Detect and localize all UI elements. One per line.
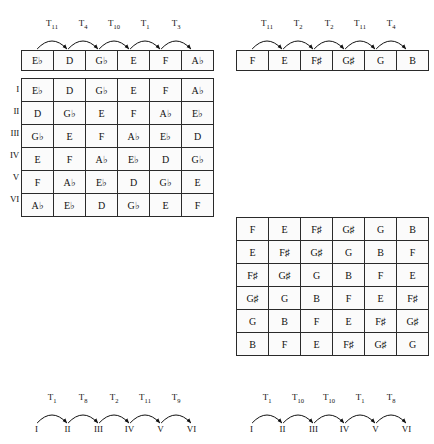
table-row: FA♭E♭DG♭E	[22, 171, 214, 194]
matrix-top-left-cell: A♭	[182, 79, 214, 102]
matrix-top-left-cell: E	[118, 79, 150, 102]
arrows-bl-arrow	[37, 415, 67, 423]
row-label: VI	[2, 188, 19, 210]
arrows-tr-label: T11	[261, 19, 273, 30]
strip-top-right-cell: E	[269, 51, 301, 71]
strip-top-left-cell: E	[118, 51, 150, 71]
matrix-top-right-cell: F♯	[269, 241, 301, 264]
matrix-top-right-cell: E	[333, 310, 365, 333]
matrix-top-right-cell: G♯	[333, 218, 365, 241]
row-label: III	[2, 122, 19, 144]
matrix-top-left-cell: E	[182, 171, 214, 194]
matrix-top-left-cell: F	[150, 79, 182, 102]
transform-arrows-top-left: T11T4T10T1T3	[21, 20, 207, 50]
arrows-tr-label: T2	[325, 19, 334, 30]
matrix-top-left-cell: E	[150, 194, 182, 217]
arrows-tr-label: T2	[294, 19, 303, 30]
matrix-top-right-cell: G	[397, 333, 429, 356]
transform-arrows-bottom-right: T1T10T10T1T8	[236, 398, 422, 424]
matrix-top-right: FEF♯G♯GBEF♯G♯GBFF♯G♯GBFEG♯GBFEF♯GBFEF♯G♯…	[236, 217, 429, 356]
arrows-tl-label: T4	[79, 19, 88, 30]
arrows-tr-label: T11	[354, 19, 366, 30]
roman-bottom-left-item: V	[157, 424, 164, 434]
matrix-top-right-cell: E	[237, 241, 269, 264]
row-label: I	[2, 78, 19, 100]
matrix-top-right-cell: G	[269, 287, 301, 310]
matrix-top-right-cell: B	[237, 333, 269, 356]
matrix-top-left-cell: D	[54, 79, 86, 102]
matrix-top-left: E♭DG♭EFA♭DG♭EFA♭E♭G♭EFA♭E♭DEFA♭E♭DG♭FA♭E…	[21, 78, 214, 217]
matrix-top-right-cell: E	[301, 333, 333, 356]
strip-top-left-cell: F	[150, 51, 182, 71]
matrix-top-right-cell: F♯	[397, 287, 429, 310]
roman-bottom-left-item: III	[94, 424, 103, 434]
strip-row: E♭DG♭EFA♭	[22, 51, 214, 71]
arrows-bl-arrow	[99, 415, 129, 423]
matrix-top-right-cell: B	[397, 218, 429, 241]
row-label: II	[2, 100, 19, 122]
roman-bottom-left-item: II	[65, 424, 71, 434]
roman-bottom-right-item: III	[309, 424, 318, 434]
matrix-top-right-cell: G♯	[237, 287, 269, 310]
matrix-top-right-cell: E	[397, 264, 429, 287]
table-row: EF♯G♯GBF	[237, 241, 429, 264]
matrix-top-right-cell: F	[269, 333, 301, 356]
roman-row-bottom-right: IIIIIIIVVVI	[236, 424, 422, 438]
matrix-top-left-cell: A♭	[150, 102, 182, 125]
arrows-tl-label: T11	[46, 19, 58, 30]
arrows-tl-label: T10	[108, 19, 120, 30]
matrix-top-left-cell: D	[150, 148, 182, 171]
matrix-top-right-cell: B	[301, 287, 333, 310]
arrows-tr-arrow	[345, 41, 375, 49]
strip-top-right-cell: F♯	[301, 51, 333, 71]
row-label: V	[2, 166, 19, 188]
roman-bottom-left-item: IV	[125, 424, 135, 434]
matrix-top-left-cell: E	[86, 102, 118, 125]
arrows-tr-arrow	[283, 41, 313, 49]
matrix-panel-top-right: FEF♯G♯GBEF♯G♯GBFF♯G♯GBFEG♯GBFEF♯GBFEF♯G♯…	[236, 217, 434, 356]
matrix-top-left-cell: E♭	[150, 125, 182, 148]
arrows-bl-arrow	[68, 415, 98, 423]
matrix-top-left-cell: D	[182, 125, 214, 148]
arrows-br-label: T10	[292, 393, 304, 404]
table-row: FEF♯G♯GB	[237, 218, 429, 241]
matrix-top-left-cell: D	[22, 102, 54, 125]
matrix-top-right-cell: E	[269, 218, 301, 241]
arrows-tr-arrow	[314, 41, 344, 49]
arrows-tr-arrow	[252, 41, 282, 49]
matrix-top-right-cell: B	[333, 264, 365, 287]
matrix-top-left-cell: A♭	[54, 171, 86, 194]
arrows-tr-label: T4	[387, 19, 396, 30]
arrows-bl-label: T11	[139, 393, 151, 404]
arrows-bl-arrow	[161, 415, 191, 423]
table-row: F♯G♯GBFE	[237, 264, 429, 287]
matrix-panel-top-left: IIIIIIIVVVI E♭DG♭EFA♭DG♭EFA♭E♭G♭EFA♭E♭DE…	[21, 78, 434, 217]
matrix-top-left-cell: E	[22, 148, 54, 171]
matrix-top-right-cell: B	[269, 310, 301, 333]
arrows-br-arrow	[345, 415, 375, 423]
arrows-tr-arrow	[376, 41, 406, 49]
matrix-top-right-cell: F	[333, 287, 365, 310]
arrows-bl-arrow	[130, 415, 160, 423]
matrix-top-left-cell: A♭	[22, 194, 54, 217]
arrows-br-arrow	[252, 415, 282, 423]
strip-top-right-cell: G♯	[333, 51, 365, 71]
matrix-top-right-cell: F♯	[237, 264, 269, 287]
arrows-bl-label: T8	[79, 393, 88, 404]
note-strip-top-right: FEF♯G♯GB	[236, 50, 429, 71]
matrix-top-left-cell: G♭	[118, 194, 150, 217]
matrix-top-right-cell: G♯	[397, 310, 429, 333]
table-row: GBFEF♯G♯	[237, 310, 429, 333]
matrix-top-right-cell: G	[365, 218, 397, 241]
roman-bottom-left-item: VI	[187, 424, 197, 434]
matrix-top-left-cell: E♭	[22, 79, 54, 102]
strip-top-left-cell: D	[54, 51, 86, 71]
matrix-top-left-cell: G♭	[182, 148, 214, 171]
table-row: A♭E♭DG♭EF	[22, 194, 214, 217]
matrix-top-left-cell: E	[54, 125, 86, 148]
matrix-top-left-cell: G♭	[54, 102, 86, 125]
strip-row: FEF♯G♯GB	[237, 51, 429, 71]
row-label: IV	[2, 144, 19, 166]
arrows-bl-label: T9	[172, 393, 181, 404]
matrix-top-left-cell: E♭	[182, 102, 214, 125]
